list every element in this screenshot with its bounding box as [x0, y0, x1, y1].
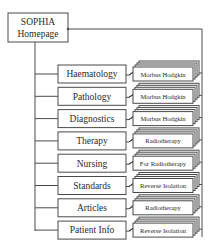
section-label: Therapy — [76, 136, 108, 146]
subpage-stack: Radiotherapy — [133, 195, 199, 215]
section-node: Articles — [58, 199, 126, 217]
subpage-label: Morbus Hodgkin — [140, 93, 186, 100]
sophia-site-diagram: SOPHIA Homepage HaematologyMorbus Hodgki… — [0, 0, 216, 249]
subpage-label: For Radiotherapy — [140, 160, 187, 167]
subpage-label: Reverse Isolation — [140, 227, 187, 234]
root-title: SOPHIA — [21, 17, 55, 27]
subpage-stack: Morbus Hodgkin — [133, 106, 199, 126]
section-label: Articles — [77, 203, 107, 213]
section-label: Standards — [73, 181, 111, 191]
section-row: DiagnosticsMorbus Hodgkin — [35, 106, 202, 128]
subpage-label: Reverse Isolation — [140, 182, 187, 189]
section-label: Pathology — [73, 92, 112, 102]
subpage-label: Radiotherapy — [145, 204, 181, 211]
section-label: Haematology — [66, 69, 117, 79]
section-label: Patient Info — [70, 225, 115, 235]
arrow-dot-icon — [67, 28, 69, 30]
section-label: Diagnostics — [70, 114, 115, 124]
section-node: Patient Info — [58, 221, 126, 239]
subpage-stack: Morbus Hodgkin — [133, 61, 199, 81]
subpage-stack: Radiotherapy — [133, 128, 199, 148]
subpage-label: Radiotherapy — [145, 137, 181, 144]
section-row: ArticlesRadiotherapy — [35, 195, 202, 217]
section-node: Haematology — [58, 65, 126, 83]
section-row: Patient InfoReverse Isolation — [35, 217, 202, 239]
subpage-stack: Morbus Hodgkin — [133, 83, 199, 103]
section-row: HaematologyMorbus Hodgkin — [35, 61, 202, 83]
section-node: Diagnostics — [58, 110, 126, 128]
section-node: Therapy — [58, 132, 126, 150]
root-node-sophia-homepage: SOPHIA Homepage — [8, 13, 68, 42]
root-subtitle: Homepage — [17, 29, 58, 39]
subpage-stack: Reverse Isolation — [133, 173, 199, 193]
section-node: Standards — [58, 177, 126, 195]
section-label: Nursing — [77, 159, 108, 169]
section-row: PathologyMorbus Hodgkin — [35, 83, 202, 105]
section-node: Pathology — [58, 87, 126, 105]
subpage-label: Morbus Hodgkin — [140, 71, 186, 78]
section-row: NursingFor Radiotherapy — [35, 150, 202, 172]
subpage-stack: For Radiotherapy — [133, 150, 199, 170]
subpage-label: Morbus Hodgkin — [140, 115, 186, 122]
section-row: StandardsReverse Isolation — [35, 173, 202, 195]
section-node: Nursing — [58, 154, 126, 172]
subpage-stack: Reverse Isolation — [133, 217, 199, 237]
section-row: TherapyRadiotherapy — [35, 128, 202, 150]
